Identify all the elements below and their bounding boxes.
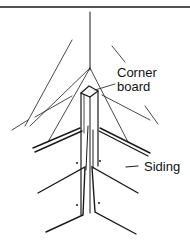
corner-board-cap [81, 86, 98, 97]
corner-board-label: Corner board [117, 66, 157, 94]
corner-board-diagram [0, 0, 190, 250]
siding-label: Siding [144, 160, 180, 174]
corner-board-label-line1: Corner [117, 66, 157, 80]
corner-board-label-line2: board [117, 80, 157, 94]
